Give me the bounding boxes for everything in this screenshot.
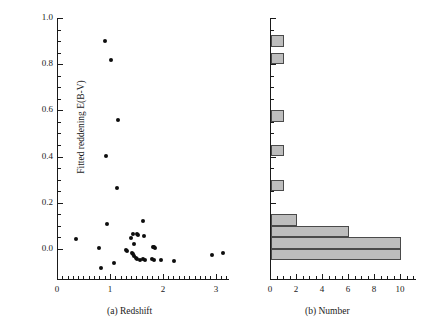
histogram-bar	[271, 249, 401, 261]
x-minor-tick	[179, 276, 180, 279]
hist-x-ticklabel: 8	[364, 285, 384, 294]
histogram-bar	[271, 237, 401, 249]
histogram-bar	[271, 214, 297, 226]
hist-x-major-tick	[296, 274, 297, 279]
hist-x-minor-tick	[407, 276, 408, 279]
hist-y-major-tick	[271, 18, 276, 19]
y-major-tick	[58, 157, 63, 158]
histogram-plot-area: 0246810	[270, 18, 416, 280]
x-major-tick	[163, 274, 164, 279]
y-minor-tick	[58, 87, 61, 88]
hist-x-minor-tick	[283, 276, 284, 279]
scatter-x-axis-line	[57, 279, 229, 280]
y-minor-tick	[58, 145, 61, 146]
x-minor-tick	[83, 276, 84, 279]
hist-x-major-tick	[348, 274, 349, 279]
scatter-point	[142, 234, 146, 238]
x-minor-tick	[89, 276, 90, 279]
x-major-tick	[216, 274, 217, 279]
y-minor-tick	[58, 168, 61, 169]
x-minor-tick	[121, 276, 122, 279]
x-ticklabel: 1	[100, 285, 120, 294]
y-minor-tick	[58, 30, 61, 31]
scatter-point	[125, 249, 129, 253]
y-minor-tick	[58, 53, 61, 54]
x-minor-tick	[105, 276, 106, 279]
hist-x-minor-tick	[316, 276, 317, 279]
hist-y-major-tick	[271, 203, 276, 204]
y-major-tick	[58, 110, 63, 111]
hist-x-minor-tick	[303, 276, 304, 279]
x-minor-tick	[73, 276, 74, 279]
hist-y-minor-tick	[271, 191, 274, 192]
x-ticklabel: 3	[206, 285, 226, 294]
hist-y-minor-tick	[271, 30, 274, 31]
y-major-tick	[58, 18, 63, 19]
y-minor-tick	[58, 122, 61, 123]
hist-x-minor-tick	[387, 276, 388, 279]
x-minor-tick	[221, 276, 222, 279]
scatter-point	[116, 118, 120, 122]
x-ticklabel: 0	[47, 285, 67, 294]
x-minor-tick	[152, 276, 153, 279]
hist-y-minor-tick	[271, 133, 274, 134]
scatter-point	[105, 222, 109, 226]
scatter-point	[132, 242, 136, 246]
x-minor-tick	[200, 276, 201, 279]
y-minor-tick	[58, 214, 61, 215]
hist-y-major-tick	[271, 157, 276, 158]
scatter-point	[99, 266, 103, 270]
hist-x-major-tick	[322, 274, 323, 279]
hist-y-minor-tick	[271, 76, 274, 77]
scatter-point	[210, 253, 214, 257]
scatter-point	[141, 219, 145, 223]
scatter-point	[143, 258, 147, 262]
hist-x-major-tick	[270, 274, 271, 279]
scatter-point	[129, 236, 133, 240]
histogram-bar	[271, 180, 284, 192]
hist-x-minor-tick	[335, 276, 336, 279]
x-minor-tick	[62, 276, 63, 279]
y-major-tick	[58, 64, 63, 65]
hist-x-major-tick	[400, 274, 401, 279]
scatter-point	[153, 246, 157, 250]
hist-x-minor-tick	[394, 276, 395, 279]
histogram-bar	[271, 110, 284, 122]
x-minor-tick	[226, 276, 227, 279]
histogram-x-axis-line	[270, 279, 416, 280]
x-minor-tick	[131, 276, 132, 279]
y-minor-tick	[58, 99, 61, 100]
hist-y-minor-tick	[271, 99, 274, 100]
x-minor-tick	[168, 276, 169, 279]
y-ticklabel: 0.0	[25, 244, 53, 253]
x-minor-tick	[99, 276, 100, 279]
x-minor-tick	[78, 276, 79, 279]
x-minor-tick	[68, 276, 69, 279]
hist-x-minor-tick	[381, 276, 382, 279]
hist-y-minor-tick	[271, 87, 274, 88]
scatter-point	[74, 237, 78, 241]
y-major-tick	[58, 203, 63, 204]
hist-x-minor-tick	[361, 276, 362, 279]
histogram-bar	[271, 35, 284, 47]
scatter-point	[104, 154, 108, 158]
x-minor-tick	[115, 276, 116, 279]
scatter-point	[103, 39, 107, 43]
hist-y-minor-tick	[271, 168, 274, 169]
scatter-point	[136, 233, 140, 237]
hist-x-minor-tick	[413, 276, 414, 279]
hist-x-minor-tick	[355, 276, 356, 279]
hist-x-major-tick	[374, 274, 375, 279]
hist-x-minor-tick	[277, 276, 278, 279]
y-major-tick	[58, 249, 63, 250]
hist-x-minor-tick	[329, 276, 330, 279]
x-minor-tick	[184, 276, 185, 279]
scatter-panel: 0.00.20.40.60.81.0 0123 Fitted reddening…	[0, 0, 250, 336]
x-minor-tick	[147, 276, 148, 279]
y-ticklabel: 0.4	[25, 152, 53, 161]
y-ticklabel: 0.2	[25, 198, 53, 207]
hist-x-minor-tick	[368, 276, 369, 279]
y-ticklabel: 0.8	[25, 59, 53, 68]
histogram-caption: (b) Number	[305, 306, 350, 316]
x-minor-tick	[195, 276, 196, 279]
